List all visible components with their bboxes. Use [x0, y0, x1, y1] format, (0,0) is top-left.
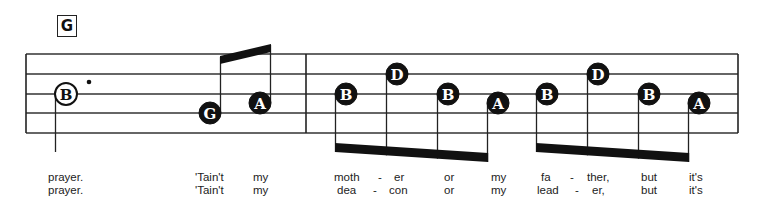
svg-text:B: B — [442, 86, 455, 104]
lyric-syllable: fa — [541, 172, 551, 184]
lyric-syllable: moth — [334, 172, 360, 184]
beam — [536, 143, 689, 162]
lyric-syllable: 'Tain't — [195, 172, 224, 184]
lyric-hyphen: - — [378, 172, 382, 184]
beam — [335, 143, 488, 162]
svg-text:D: D — [591, 66, 604, 84]
note-a: A — [688, 92, 710, 114]
lyric-syllable: prayer. — [48, 172, 83, 184]
lyric-syllable: con — [389, 185, 408, 197]
lyric-syllable: ther, — [587, 172, 609, 184]
lyric-syllable: lead — [537, 185, 559, 197]
lyric-hyphen: - — [570, 172, 574, 184]
lyric-hyphen: - — [575, 185, 579, 197]
lyric-syllable: or — [444, 185, 454, 197]
lyric-syllable: my — [491, 185, 506, 197]
lyric-syllable: er — [394, 172, 404, 184]
music-staff: BGABDBABDBA — [0, 0, 777, 211]
lyric-syllable: 'Tain't — [195, 185, 224, 197]
lyric-syllable: it's — [689, 185, 703, 197]
lyric-syllable: my — [253, 172, 268, 184]
note-d: D — [587, 63, 609, 85]
lyric-syllable: or — [444, 172, 454, 184]
lyric-syllable: my — [253, 185, 268, 197]
note-a: A — [487, 92, 509, 114]
svg-text:B: B — [60, 86, 73, 104]
lyric-syllable: prayer. — [48, 185, 83, 197]
svg-text:D: D — [390, 66, 403, 84]
note-b: B — [55, 83, 77, 105]
note-b: B — [335, 83, 357, 105]
lyric-syllable: er, — [592, 185, 605, 197]
lyric-syllable: but — [641, 185, 657, 197]
svg-text:B: B — [643, 86, 656, 104]
svg-text:B: B — [340, 86, 353, 104]
note-b: B — [536, 83, 558, 105]
lyric-syllable: my — [491, 172, 506, 184]
lyric-syllable: it's — [689, 172, 703, 184]
svg-text:B: B — [541, 86, 554, 104]
lyric-syllable: dea — [337, 185, 356, 197]
lyric-hyphen: - — [373, 185, 377, 197]
note-b: B — [638, 83, 660, 105]
svg-text:A: A — [692, 95, 705, 113]
note-d: D — [386, 63, 408, 85]
note-g: G — [199, 102, 221, 124]
augmentation-dot — [87, 80, 92, 85]
note-b: B — [437, 83, 459, 105]
note-a: A — [249, 92, 271, 114]
lyric-syllable: but — [641, 172, 657, 184]
svg-text:A: A — [253, 95, 266, 113]
svg-text:A: A — [491, 95, 504, 113]
svg-text:G: G — [204, 105, 217, 123]
